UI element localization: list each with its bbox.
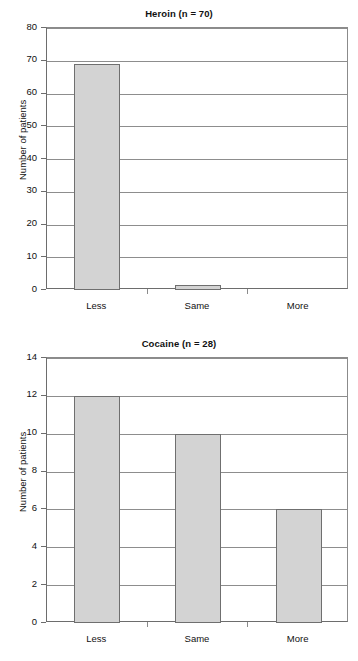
chart-title-cocaine: Cocaine (n = 28) (0, 338, 358, 349)
x-axis-tick-label: More (258, 300, 338, 311)
chart-cocaine: Cocaine (n = 28) Number of patients 0246… (0, 330, 358, 661)
y-axis-tick-label: 4 (0, 540, 37, 551)
chart-heroin: Heroin (n = 70) Number of patients 01020… (0, 0, 358, 330)
y-axis-tick (41, 471, 46, 472)
x-axis-tick-label: More (258, 633, 338, 644)
x-axis-tick-label: Less (56, 633, 136, 644)
y-axis-tick (41, 27, 46, 28)
bar (74, 64, 120, 290)
y-axis-tick (41, 191, 46, 192)
x-axis-tick (247, 622, 248, 627)
y-axis-tick (41, 289, 46, 290)
plot-area-heroin (46, 27, 348, 289)
y-axis-tick (41, 256, 46, 257)
y-axis-tick-label: 50 (0, 119, 37, 130)
x-axis-tick (147, 289, 148, 294)
y-axis-tick-label: 2 (0, 578, 37, 589)
y-axis-tick (41, 395, 46, 396)
y-axis-tick-label: 10 (0, 426, 37, 437)
y-axis-tick-label: 80 (0, 21, 37, 32)
y-axis-tick (41, 584, 46, 585)
y-axis-tick-label: 12 (0, 388, 37, 399)
x-axis-tick-label: Same (157, 300, 237, 311)
y-axis-tick-label: 70 (0, 53, 37, 64)
y-axis-tick-label: 10 (0, 250, 37, 261)
y-axis-tick-label: 0 (0, 616, 37, 627)
y-axis-tick (41, 60, 46, 61)
x-axis-tick-label: Same (157, 633, 237, 644)
y-axis-label-heroin: Number of patients (17, 100, 28, 180)
y-axis-tick-label: 20 (0, 217, 37, 228)
y-axis-tick-label: 30 (0, 184, 37, 195)
y-axis-tick (41, 546, 46, 547)
x-axis-tick-label: Less (56, 300, 136, 311)
bar (175, 285, 221, 290)
bar (175, 434, 221, 623)
y-axis-tick (41, 508, 46, 509)
y-axis-tick-label: 6 (0, 502, 37, 513)
gridline (47, 358, 347, 359)
y-axis-tick-label: 14 (0, 351, 37, 362)
y-axis-tick (41, 357, 46, 358)
bar (276, 509, 322, 623)
y-axis-tick (41, 93, 46, 94)
y-axis-tick-label: 60 (0, 86, 37, 97)
gridline (47, 61, 347, 62)
y-axis-tick-label: 40 (0, 152, 37, 163)
y-axis-tick-label: 8 (0, 464, 37, 475)
plot-area-cocaine (46, 357, 348, 622)
y-axis-tick (41, 125, 46, 126)
gridline (47, 28, 347, 29)
bar (74, 396, 120, 623)
x-axis-tick (247, 289, 248, 294)
y-axis-tick (41, 433, 46, 434)
y-axis-tick (41, 224, 46, 225)
y-axis-tick (41, 622, 46, 623)
chart-title-heroin: Heroin (n = 70) (0, 8, 358, 19)
x-axis-tick (147, 622, 148, 627)
figure-page: Heroin (n = 70) Number of patients 01020… (0, 0, 358, 661)
y-axis-tick (41, 158, 46, 159)
y-axis-tick-label: 0 (0, 283, 37, 294)
